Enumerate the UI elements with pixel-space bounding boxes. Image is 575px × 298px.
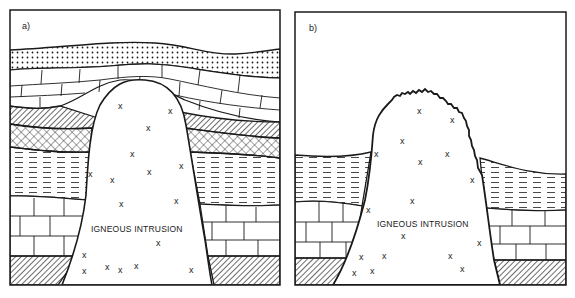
svg-text:x: x: [156, 238, 161, 248]
svg-text:x: x: [179, 161, 184, 171]
basement-hatched-b-right: [494, 260, 566, 285]
panel-b-label: b): [309, 23, 317, 33]
shale-bed-right: [190, 152, 280, 206]
shale-bed: [10, 147, 90, 200]
shale-bed-b-right: [480, 158, 566, 211]
panel-b-caption: IGNEOUS INTRUSION: [377, 219, 469, 229]
svg-text:x: x: [370, 266, 375, 276]
geology-diagram: a) IGNEOUS INTRUSION xxx xxx xxx xxx xxx…: [0, 0, 575, 298]
svg-text:x: x: [105, 262, 110, 272]
svg-text:x: x: [445, 149, 450, 159]
svg-text:x: x: [118, 265, 123, 275]
svg-text:x: x: [174, 196, 179, 206]
svg-text:x: x: [110, 175, 115, 185]
svg-text:x: x: [130, 149, 135, 159]
svg-text:x: x: [410, 196, 415, 206]
svg-text:x: x: [88, 169, 93, 179]
basement-hatched-right: [208, 256, 280, 285]
svg-text:x: x: [417, 106, 422, 116]
svg-text:x: x: [374, 149, 379, 159]
shale-bed-b-left: [295, 152, 371, 206]
svg-text:x: x: [477, 238, 482, 248]
panel-b: [295, 89, 566, 285]
svg-text:x: x: [470, 175, 475, 185]
svg-text:x: x: [147, 167, 152, 177]
svg-text:x: x: [460, 264, 465, 274]
svg-text:x: x: [450, 115, 455, 125]
svg-text:x: x: [382, 251, 387, 261]
svg-text:x: x: [168, 106, 173, 116]
svg-text:x: x: [352, 268, 357, 278]
panel-a: [10, 42, 280, 285]
svg-text:x: x: [146, 123, 151, 133]
svg-text:x: x: [366, 205, 371, 215]
svg-text:x: x: [82, 250, 87, 260]
svg-text:x: x: [119, 199, 124, 209]
svg-text:x: x: [401, 231, 406, 241]
svg-text:x: x: [134, 261, 139, 271]
svg-text:x: x: [448, 251, 453, 261]
svg-text:x: x: [189, 265, 194, 275]
svg-text:x: x: [359, 252, 364, 262]
svg-text:x: x: [418, 157, 423, 167]
svg-text:x: x: [82, 266, 87, 276]
svg-text:x: x: [400, 136, 405, 146]
panel-a-label: a): [22, 21, 30, 31]
svg-text:x: x: [118, 101, 123, 111]
panel-a-caption: IGNEOUS INTRUSION: [91, 224, 183, 234]
